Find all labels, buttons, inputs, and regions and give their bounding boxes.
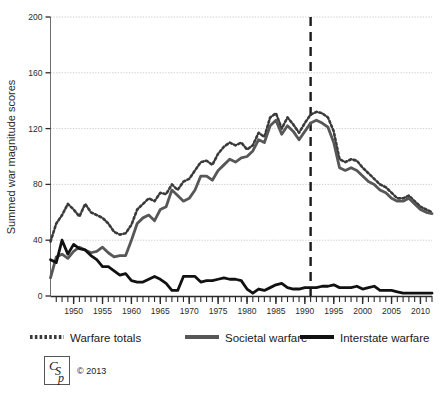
war-magnitude-line-chart: 04080120160200 1950195519601965197019751…	[0, 0, 440, 395]
y-tick-label-120: 120	[28, 124, 42, 134]
y-tick-label-160: 160	[28, 68, 42, 78]
x-tick-label-1975: 1975	[209, 306, 228, 316]
legend-label-interstate-warfare: Interstate warfare	[340, 332, 429, 344]
x-tick-label-1965: 1965	[151, 306, 170, 316]
chart-figure: 04080120160200 1950195519601965197019751…	[0, 0, 440, 395]
copyright-label: © 2013	[77, 366, 106, 376]
x-tick-label-2000: 2000	[353, 306, 372, 316]
x-tick-label-2005: 2005	[382, 306, 401, 316]
csp-logo: C S p	[45, 357, 70, 386]
x-tick-label-1990: 1990	[295, 306, 314, 316]
y-axis-title: Summed war magnitude scores	[5, 79, 17, 234]
x-tick-label-1955: 1955	[93, 306, 112, 316]
x-tick-label-1950: 1950	[64, 306, 83, 316]
legend-label-warfare-totals: Warfare totals	[70, 332, 141, 344]
logo-letter-p: p	[57, 371, 64, 385]
y-tick-label-0: 0	[38, 291, 43, 301]
legend-label-societal-warfare: Societal warfare	[225, 332, 307, 344]
x-tick-label-1970: 1970	[180, 306, 199, 316]
x-tick-label-1960: 1960	[122, 306, 141, 316]
y-tick-label-200: 200	[28, 12, 42, 22]
y-tick-label-40: 40	[33, 235, 43, 245]
x-tick-label-1980: 1980	[238, 306, 257, 316]
x-tick-label-1985: 1985	[266, 306, 285, 316]
chart-legend: Warfare totalsSocietal warfareInterstate…	[30, 332, 429, 344]
x-tick-label-2010: 2010	[411, 306, 430, 316]
y-tick-label-80: 80	[33, 179, 43, 189]
x-tick-label-1995: 1995	[324, 306, 343, 316]
